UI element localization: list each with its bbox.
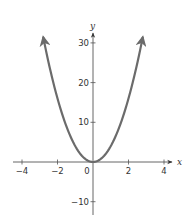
x-tick-label: 4 <box>161 166 166 176</box>
x-axis-label: x <box>177 157 182 167</box>
parabola-curve <box>43 38 93 163</box>
y-tick-label: −10 <box>71 197 89 207</box>
x-tick-label: 2 <box>126 166 131 176</box>
x-tick-label: −4 <box>16 166 29 176</box>
x-tick-label: −2 <box>51 166 64 176</box>
y-ticks: 302010−10 <box>71 38 95 207</box>
y-tick-label: 20 <box>78 78 89 88</box>
y-tick-label: 30 <box>78 38 89 48</box>
y-axis-label: y <box>89 21 96 31</box>
parabola-curve-right <box>93 38 143 163</box>
y-tick-label: 10 <box>78 117 89 127</box>
parabola-chart: −4−2024 302010−10 x y <box>0 0 189 219</box>
x-tick-label: 0 <box>84 166 89 176</box>
